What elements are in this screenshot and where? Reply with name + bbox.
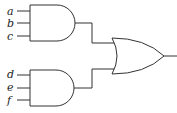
input-label-e: e bbox=[7, 81, 14, 94]
and-gate-2 bbox=[30, 70, 74, 106]
and-gate-1 bbox=[30, 5, 75, 41]
input-label-d: d bbox=[7, 68, 14, 81]
logic-circuit-diagram: a b c d e f bbox=[0, 0, 177, 113]
wire-and1-to-or bbox=[75, 23, 115, 43]
wire-and2-to-or bbox=[74, 69, 115, 88]
input-wires bbox=[17, 11, 30, 100]
or-gate bbox=[112, 38, 164, 74]
input-label-f: f bbox=[6, 94, 13, 107]
input-label-c: c bbox=[7, 30, 13, 43]
input-label-b: b bbox=[7, 17, 14, 30]
